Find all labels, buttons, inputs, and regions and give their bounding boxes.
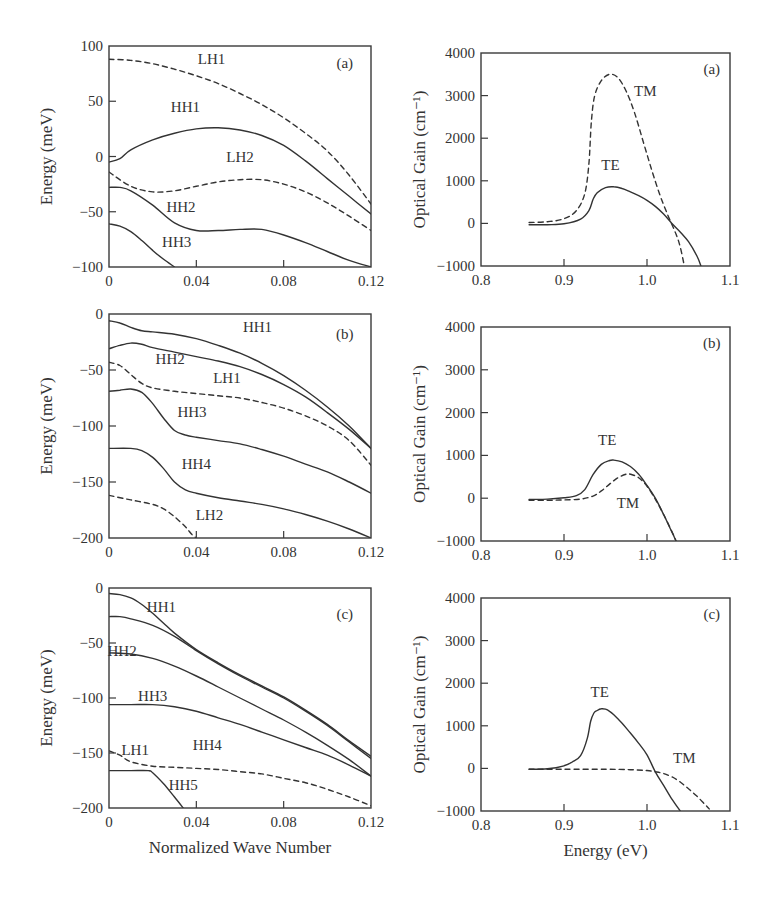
y-tick-label: −100: [72, 259, 103, 275]
figure: 00.040.080.12−100−50050100Energy (meV)LH…: [0, 0, 778, 897]
y-tick-label: −1000: [437, 533, 475, 549]
curve-label-lh2: LH2: [226, 149, 254, 165]
curve-label-hh2: HH2: [108, 643, 137, 659]
curve-hh1: [109, 594, 371, 757]
curve-hh3: [109, 389, 371, 493]
curve-hh1: [109, 128, 371, 214]
curve-label-lh2: LH2: [196, 507, 224, 523]
panel-label: (b): [336, 326, 354, 343]
y-tick-label: 1000: [445, 173, 475, 189]
curve-label-lh1: LH1: [121, 742, 149, 758]
y-axis-label: Optical Gain (cm⁻¹): [410, 636, 429, 774]
x-tick-label: 0.12: [358, 814, 384, 830]
y-tick-label: 2000: [445, 675, 475, 691]
curve-label-lh1: LH1: [213, 370, 241, 386]
panel-label: (a): [703, 61, 720, 78]
x-tick-label: 1.0: [638, 817, 657, 833]
curve-lh2: [109, 495, 196, 538]
curve-label-hh2: HH2: [166, 199, 195, 215]
y-tick-label: 100: [81, 38, 104, 54]
curve-hh2: [109, 343, 371, 448]
y-tick-label: −1000: [437, 803, 475, 819]
x-tick-label: 0.9: [555, 547, 574, 563]
curve-te: [529, 709, 680, 811]
x-tick-label: 1.1: [721, 272, 740, 288]
y-tick-label: 0: [96, 306, 104, 322]
curve-label-hh3: HH3: [138, 688, 167, 704]
y-axis-label: Optical Gain (cm⁻¹): [410, 365, 429, 503]
y-tick-label: −150: [72, 745, 103, 761]
plot-area: [109, 321, 371, 538]
curve-te: [529, 187, 701, 266]
y-tick-label: 0: [96, 149, 104, 165]
x-tick-label: 1.1: [721, 547, 740, 563]
curve-tm: [529, 474, 676, 541]
curve-label-hh3: HH3: [177, 404, 206, 420]
x-tick-label: 0.08: [271, 273, 297, 289]
y-tick-label: 3000: [445, 88, 475, 104]
x-tick-label: 1.0: [638, 547, 657, 563]
x-tick-label: 1.0: [638, 272, 657, 288]
chart-gain-a: 0.80.91.01.1−100001000200030004000Optica…: [410, 45, 739, 288]
curve-label-te: TE: [591, 684, 609, 700]
curve-hh2: [109, 187, 371, 267]
y-tick-label: 4000: [445, 319, 475, 335]
panel-label: (c): [336, 606, 353, 623]
y-tick-label: −150: [72, 474, 103, 490]
x-tick-label: 0: [105, 273, 113, 289]
panel-label: (b): [703, 335, 721, 352]
y-tick-label: 0: [468, 760, 476, 776]
x-tick-label: 0.04: [183, 273, 210, 289]
x-tick-label: 0.8: [472, 547, 491, 563]
y-tick-label: 0: [468, 490, 476, 506]
curve-label-tm: TM: [673, 750, 696, 766]
chart-band-c: 00.040.080.12−200−150−100−500Energy (meV…: [37, 580, 384, 857]
y-tick-label: 3000: [445, 633, 475, 649]
y-tick-label: −200: [72, 530, 103, 546]
y-tick-label: 2000: [445, 130, 475, 146]
x-axis-label: Energy (eV): [563, 841, 647, 860]
curve-label-hh3: HH3: [162, 234, 191, 250]
chart-gain-c: 0.80.91.01.1−100001000200030004000Optica…: [410, 590, 739, 860]
curve-label-te: TE: [601, 157, 619, 173]
curve-label-hh2: HH2: [156, 351, 185, 367]
y-axis-label: Energy (meV): [37, 377, 56, 474]
x-tick-label: 0.08: [271, 544, 297, 560]
y-tick-label: 2000: [445, 405, 475, 421]
panel-label: (c): [703, 606, 720, 623]
y-axis-label: Optical Gain (cm⁻¹): [410, 91, 429, 229]
axes-frame: [109, 314, 371, 538]
y-tick-label: 0: [96, 580, 104, 596]
curve-label-hh1: HH1: [171, 99, 200, 115]
y-tick-label: −100: [72, 418, 103, 434]
y-tick-label: −50: [80, 362, 103, 378]
x-tick-label: 0.8: [472, 817, 491, 833]
chart-band-b: 00.040.080.12−200−150−100−500Energy (meV…: [37, 306, 384, 560]
plot-area: [529, 460, 676, 541]
panel-label: (a): [336, 55, 353, 72]
curve-label-hh4: HH4: [193, 737, 223, 753]
chart-gain-b: 0.80.91.01.1−100001000200030004000Optica…: [410, 319, 739, 563]
x-tick-label: 0: [105, 814, 113, 830]
y-axis-label: Energy (meV): [37, 649, 56, 746]
x-tick-label: 0.9: [555, 272, 574, 288]
curve-label-lh1: LH1: [198, 51, 226, 67]
y-tick-label: −50: [80, 204, 103, 220]
x-tick-label: 0: [105, 544, 113, 560]
x-axis-label: Normalized Wave Number: [149, 838, 332, 857]
y-tick-label: 4000: [445, 590, 475, 606]
curve-tm: [529, 769, 709, 809]
curve-lh1: [109, 751, 371, 806]
y-tick-label: 1000: [445, 718, 475, 734]
y-tick-label: 50: [88, 93, 103, 109]
y-tick-label: 4000: [445, 45, 475, 61]
x-tick-label: 1.1: [721, 817, 740, 833]
y-tick-label: 3000: [445, 362, 475, 378]
y-tick-label: −200: [72, 800, 103, 816]
x-tick-label: 0.12: [358, 273, 384, 289]
curve-label-hh4: HH4: [182, 456, 212, 472]
x-tick-label: 0.9: [555, 817, 574, 833]
y-axis-label: Energy (meV): [37, 108, 56, 205]
curve-label-hh5: HH5: [169, 777, 198, 793]
curve-label-tm: TM: [617, 495, 640, 511]
